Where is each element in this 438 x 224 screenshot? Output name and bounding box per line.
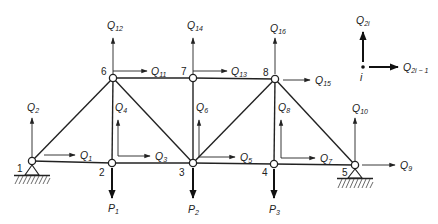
- member-8-5: [275, 79, 355, 165]
- label-p1: P1: [108, 202, 119, 215]
- member-1-6: [32, 78, 113, 161]
- legend-node-label: i: [360, 71, 363, 83]
- joint-8: [271, 75, 278, 82]
- member-2-6: [112, 78, 113, 163]
- joint-label-4: 4: [262, 167, 268, 178]
- dof-labels: Q1 Q2 Q3 Q4 Q5 Q6 Q7 Q8 Q9 Q10 Q11 Q12 Q…: [27, 19, 412, 172]
- label-q11: Q11: [151, 65, 167, 78]
- joint-6: [109, 74, 116, 81]
- member-8-4: [274, 79, 275, 164]
- member-4-5: [274, 164, 355, 165]
- member-1-2: [32, 161, 112, 163]
- label-q1: Q1: [80, 149, 92, 162]
- joint-1: [28, 157, 35, 164]
- joint-label-6: 6: [101, 66, 107, 77]
- joint-label-3: 3: [179, 167, 185, 178]
- joint-label-5: 5: [342, 167, 348, 178]
- ground-hatch-icon: [338, 179, 373, 188]
- joint-label-1: 1: [17, 163, 23, 174]
- label-q13: Q13: [231, 65, 247, 78]
- truss-diagram: 1 2 3 4 5 6 7 8 Q1 Q2 Q3 Q4 Q5 Q6 Q7 Q8 …: [0, 0, 438, 224]
- label-q15: Q15: [315, 74, 331, 87]
- member-7-8: [193, 78, 275, 79]
- label-q2: Q2: [27, 101, 39, 114]
- dof-arrows: [32, 38, 395, 165]
- label-q3: Q3: [155, 150, 167, 163]
- joint-2: [108, 159, 115, 166]
- label-q4: Q4: [115, 101, 127, 114]
- label-q7: Q7: [320, 152, 333, 165]
- joint-5: [351, 161, 358, 168]
- member-3-4: [193, 163, 274, 164]
- joint-label-2: 2: [99, 167, 105, 178]
- load-labels: P1 P2 P3: [108, 202, 280, 216]
- member-6-3: [113, 78, 193, 163]
- label-q16: Q16: [270, 22, 286, 35]
- load-arrows: [112, 168, 274, 198]
- joint-7: [189, 74, 196, 81]
- legend-label-horizontal: Q2i − 1: [403, 61, 429, 74]
- label-q5: Q5: [240, 151, 252, 164]
- dof-legend: i Q2i Q2i − 1: [356, 14, 429, 83]
- legend-node-dot-icon: [361, 65, 365, 69]
- member-3-8: [193, 79, 275, 163]
- joint-3: [189, 159, 196, 166]
- label-q10: Q10: [352, 102, 368, 115]
- label-p3: P3: [269, 203, 280, 216]
- label-q9: Q9: [400, 159, 412, 172]
- ground-hatch-icon: [15, 176, 50, 184]
- label-q6: Q6: [196, 101, 208, 114]
- label-q8: Q8: [278, 101, 290, 114]
- legend-label-vertical: Q2i: [356, 14, 370, 27]
- joint-label-8: 8: [263, 67, 269, 78]
- label-q14: Q14: [187, 19, 203, 32]
- joint-label-7: 7: [181, 66, 187, 77]
- label-q12: Q12: [107, 19, 123, 32]
- label-p2: P2: [188, 203, 199, 216]
- joint-4: [270, 160, 277, 167]
